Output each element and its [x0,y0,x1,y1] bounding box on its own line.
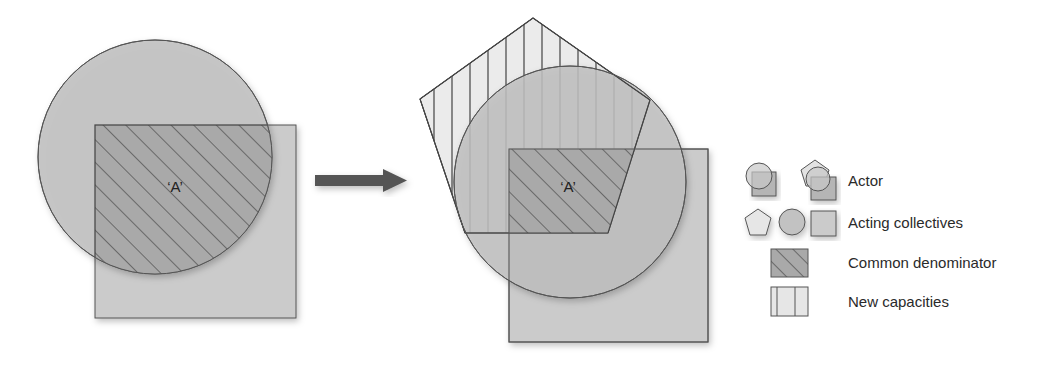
legend-label-common-denominator: Common denominator [848,254,996,271]
legend: Actor Acting collectives Common denomina… [745,160,996,316]
transition-arrow [315,169,407,192]
common-denominator-label-after: ‘A’ [560,178,576,195]
vertical-hatch-icon [771,287,808,316]
acting-collectives-icon [745,209,836,236]
legend-label-actor: Actor [848,172,883,189]
diagonal-hatch-icon [771,249,808,277]
legend-label-new-capacities: New capacities [848,293,949,310]
diagram-canvas: ‘A’ ‘A’ [0,0,1063,367]
actor-icon [746,160,836,200]
after-diagram: ‘A’ [420,18,708,342]
before-diagram: ‘A’ [38,40,296,318]
common-denominator-label-before: ‘A’ [167,178,183,195]
legend-label-acting-collectives: Acting collectives [848,214,963,231]
